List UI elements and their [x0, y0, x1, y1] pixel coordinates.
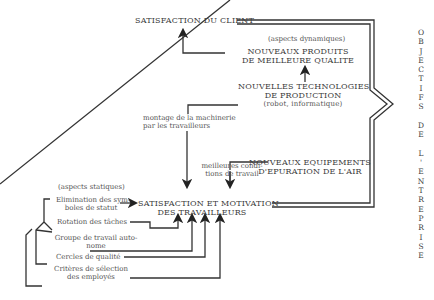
conditions-line1: meilleures condi- — [200, 162, 264, 170]
node-client-satisfaction: SATISFACTION DU CLIENT — [135, 16, 254, 25]
tech-line1: NOUVELLES TECHNOLOGIES — [238, 82, 368, 91]
products-line2: DE MEILLEURE QUALITE — [228, 56, 368, 65]
conditions-line2: tions de travail — [200, 170, 264, 178]
factor-rotation: Rotation des tâches — [57, 218, 127, 226]
node-new-products: NOUVEAUX PRODUITS DE MEILLEURE QUALITE — [228, 47, 368, 65]
factor-autonomous-group: Groupe de travail auto- nome — [53, 234, 139, 250]
factor-elimination: Elimination des sym- boles de statut — [56, 196, 126, 212]
elim-line2: boles de statut — [56, 204, 126, 212]
equip-line2: D'EPURATION DE L'AIR — [245, 167, 375, 176]
factor-quality-circles: Cercles de qualité — [56, 253, 120, 261]
label-static-aspects: (aspects statiques) — [58, 183, 125, 191]
static-bracket — [44, 199, 52, 230]
groupe-line1: Groupe de travail auto- — [53, 234, 139, 242]
workers-line2: DES TRAVAILLEURS — [138, 208, 266, 217]
tech-line3: (robot, informatique) — [238, 100, 368, 108]
label-montage: montage de la machinerie par les travail… — [143, 114, 236, 130]
tech-line2: DE PRODUCTION — [238, 91, 368, 100]
criteres-line1: Critères de sélection — [52, 265, 130, 273]
montage-line2: par les travailleurs — [143, 122, 236, 130]
groupe-line2: nome — [53, 242, 139, 250]
criteres-line2: des employés — [52, 273, 130, 281]
node-workers-satisfaction: SATISFACTION ET MOTIVATION DES TRAVAILLE… — [138, 199, 266, 217]
label-better-conditions-text: meilleures condi- tions de travail — [200, 162, 264, 178]
equip-line1: NOUVEAUX EQUIPEMENTS — [245, 158, 375, 167]
label-dynamic-aspects: (aspects dynamiques) — [268, 35, 345, 43]
node-air-equipment: NOUVEAUX EQUIPEMENTS D'EPURATION DE L'AI… — [245, 158, 375, 176]
node-new-technologies: NOUVELLES TECHNOLOGIES DE PRODUCTION (ro… — [238, 82, 368, 108]
workers-line1: SATISFACTION ET MOTIVATION — [138, 199, 266, 208]
factor-selection-criteria: Critères de sélection des employés — [52, 265, 130, 281]
montage-line1: montage de la machinerie — [143, 114, 236, 122]
elim-line1: Elimination des sym- — [56, 196, 126, 204]
vertical-title-objectives: OBJECTIFS DE L'ENTREPRISE — [415, 28, 427, 260]
products-line1: NOUVEAUX PRODUITS — [228, 47, 368, 56]
